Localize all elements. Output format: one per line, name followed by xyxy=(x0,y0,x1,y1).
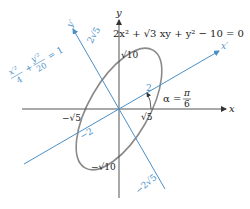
tick-xprime-2: 2 xyxy=(146,83,152,93)
svg-text:4: 4 xyxy=(15,75,24,85)
svg-text:= 1: = 1 xyxy=(46,45,65,62)
angle-num: π xyxy=(183,88,191,98)
tick-y-neg-sqrt10: −√10 xyxy=(91,162,116,172)
x-prime-axis-label: x′ xyxy=(221,41,228,51)
y-axis-label: y xyxy=(115,7,122,18)
equation-label: 2x² + √3 xy + y² − 10 = 0 xyxy=(113,28,244,39)
y-prime-axis-label: y′ xyxy=(64,18,77,30)
ellipse-rotation-diagram: y x x′ y′ 2x² + √3 xy + y² − 10 = 0 x′² … xyxy=(0,0,250,209)
tick-y-sqrt10: √10 xyxy=(121,50,138,60)
svg-text:20: 20 xyxy=(35,61,48,74)
tick-x-sqrt5: √5 xyxy=(141,112,153,122)
tick-x-neg-sqrt5: −√5 xyxy=(62,113,81,123)
x-axis-label: x xyxy=(229,103,235,114)
angle-den: 6 xyxy=(184,99,190,109)
tick-xprime-neg2: −2 xyxy=(78,126,95,141)
tick-yprime-2sqrt5: 2√5 xyxy=(85,25,102,45)
rotated-equation: x′² 4 + y′² 20 = 1 xyxy=(6,40,67,87)
x-prime-axis xyxy=(24,51,219,164)
angle-arc xyxy=(147,93,151,109)
tick-yprime-neg2sqrt5: −2√5 xyxy=(133,172,159,196)
angle-label: α = xyxy=(163,93,181,104)
